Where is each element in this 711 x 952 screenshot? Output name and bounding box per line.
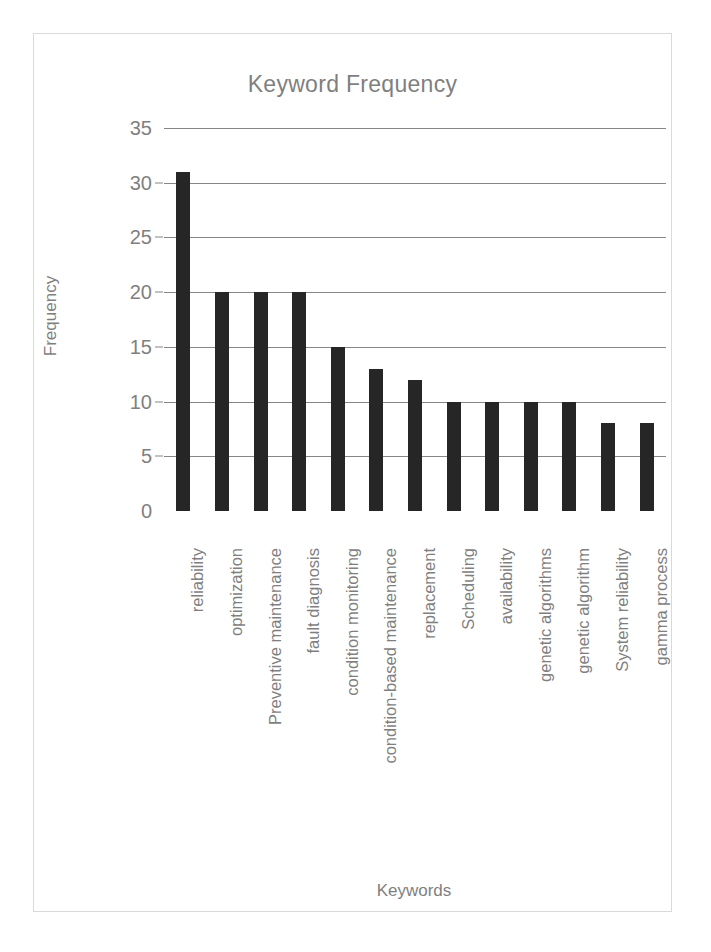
x-axis-category-label: gamma process [653,548,670,665]
y-axis-tick-label: 10 [130,392,152,412]
y-axis-tick-label: 5 [141,446,152,466]
y-axis-tick-mark [155,182,163,183]
x-axis-category-label: availability [498,548,515,624]
x-axis-category-label: condition monitoring [344,548,361,696]
bar [176,172,190,511]
bar [408,380,422,511]
x-axis-category-label: genetic algorithms [537,548,554,682]
y-axis-tick-mark [155,292,163,293]
y-axis-tick-label: 25 [130,227,152,247]
y-axis-tick-mark [155,346,163,347]
bar [292,292,306,511]
y-axis-tick-label: 30 [130,173,152,193]
y-axis-tick-mark [155,237,163,238]
chart-title: Keyword Frequency [34,71,671,98]
bar-series [164,128,666,511]
x-axis-category-label: replacement [421,548,438,639]
x-axis-category-label: Preventive maintenance [267,548,284,725]
x-axis-title: Keywords [164,881,664,901]
chart-frame: Keyword Frequency Frequency 051015202530… [33,33,672,912]
y-axis-tick-mark [155,456,163,457]
y-axis-tick-label: 0 [141,501,152,521]
bar [640,423,654,511]
y-axis-tick-label: 20 [130,282,152,302]
bar [601,423,615,511]
bar [485,402,499,511]
y-axis-title: Frequency [41,236,61,396]
plot-area: 05101520253035 [164,128,666,511]
x-axis-category-label: reliability [189,548,206,612]
bar [215,292,229,511]
x-axis-category-label: Scheduling [460,548,477,630]
y-axis-tick-mark [155,401,163,402]
x-axis-category-label: genetic algorithm [575,548,592,674]
y-axis-tick-label: 35 [130,118,152,138]
bar [447,402,461,511]
bar [369,369,383,511]
y-axis-tick-label: 15 [130,337,152,357]
bar [562,402,576,511]
bar [524,402,538,511]
bar [254,292,268,511]
x-axis-category-labels: reliabilityoptimizationPreventive mainte… [164,548,666,868]
x-axis-category-label: System reliability [614,548,631,672]
x-axis-category-label: optimization [228,548,245,636]
x-axis-category-label: condition-based maintenance [382,548,399,764]
x-axis-category-label: fault diagnosis [305,548,322,654]
bar [331,347,345,511]
